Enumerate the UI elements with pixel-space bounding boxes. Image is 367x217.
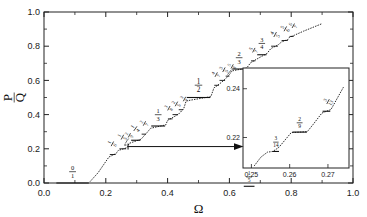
plot-canvas: 0.00.20.40.60.81.0Ω0.00.20.40.60.81.0PQ0…	[0, 0, 367, 217]
fraction-denominator: 7	[254, 49, 260, 54]
plateau-3-8: 38	[163, 103, 175, 119]
fraction-denominator: 5	[248, 177, 251, 183]
plateau-label: 37	[178, 94, 190, 104]
y-tick-label: 0.6	[27, 76, 40, 86]
fraction-denominator: 9	[298, 123, 301, 129]
plateau-label: 13	[155, 107, 162, 122]
y-tick-label: 1.0	[27, 7, 40, 17]
fraction-denominator: 2	[197, 86, 201, 94]
x-tick-label: 0.8	[285, 188, 298, 198]
fraction-numerator: 3	[260, 36, 263, 43]
fraction-denominator: 9	[129, 134, 135, 139]
plateau-1-6: 16	[106, 139, 118, 155]
plateau-label: 16	[106, 139, 118, 149]
plateau-label: 23	[236, 50, 243, 65]
fraction-numerator: 1	[107, 140, 113, 145]
plateau-1-3: 13	[151, 107, 165, 126]
plateau-label: 14	[128, 123, 142, 135]
inset-y-tick-label: 0.24	[226, 85, 240, 92]
plateau-0-1: 01	[56, 164, 88, 183]
fraction-denominator: 3	[238, 58, 241, 65]
plateau-2-3: 23	[232, 50, 246, 69]
plateau-label: 38	[163, 103, 175, 113]
fraction-denominator: 14	[273, 142, 279, 148]
fraction-denominator: 6	[284, 27, 291, 32]
x-tick-label: 0.0	[38, 188, 51, 198]
fraction-denominator: 7	[293, 24, 299, 29]
plateau-label: 58	[226, 62, 238, 71]
y-tick-label: 0.0	[27, 178, 40, 188]
plateau-label: 27	[138, 119, 150, 129]
fraction-numerator: 1	[157, 107, 160, 114]
plateau-label: 34	[259, 36, 265, 50]
fraction-denominator: 4	[260, 43, 263, 50]
x-tick-label: 1.0	[347, 188, 360, 198]
fraction-denominator: 4	[134, 127, 141, 133]
y-axis-title: PQ	[0, 92, 27, 102]
fraction-denominator: 3	[157, 115, 160, 122]
plateau-1-2: 12	[187, 78, 210, 98]
x-tick-label: 0.2	[100, 188, 113, 198]
y-axis-title-denominator: Q	[12, 92, 27, 102]
fraction-numerator: 1	[197, 78, 201, 86]
fraction-numerator: 2	[298, 116, 301, 122]
fraction-denominator: 7	[144, 122, 150, 127]
y-tick-label: 0.2	[27, 144, 40, 154]
inset-panel: 0.250.260.270.220.241531429313	[226, 68, 349, 186]
fraction-numerator: 2	[238, 50, 241, 57]
plateau-label: 12	[195, 78, 202, 94]
inset-pointer-arrow	[128, 143, 243, 150]
plateau-label: 67	[287, 21, 299, 31]
fraction-denominator: 7	[216, 73, 222, 78]
plateau-4-5: 45	[268, 29, 282, 46]
y-tick-label: 0.4	[27, 110, 40, 120]
fraction-numerator: 0	[71, 164, 74, 171]
fraction-denominator: 1	[71, 172, 74, 179]
x-tick-label: 0.4	[161, 188, 174, 198]
fraction-denominator: 8	[169, 107, 175, 112]
fraction-numerator: 3	[218, 66, 224, 71]
fraction-numerator: 2	[171, 100, 177, 105]
plateau-label: 01	[69, 164, 76, 179]
inset-frame	[243, 68, 349, 168]
plateau-label: 57	[248, 45, 260, 55]
plateau-label: 25	[170, 99, 182, 109]
inset-y-tick-label: 0.22	[226, 134, 240, 141]
inset-x-tick-label: 0.27	[321, 171, 335, 178]
fraction-denominator: 6	[112, 143, 118, 148]
inset-x-tick-label: 0.26	[283, 171, 297, 178]
y-tick-label: 0.8	[27, 41, 40, 51]
x-axis-title: Ω	[194, 201, 204, 216]
plateau-label: 45	[268, 29, 282, 40]
plateau-label: 47	[210, 70, 222, 80]
fraction-numerator: 1	[248, 170, 251, 176]
x-tick-label: 0.6	[223, 188, 236, 198]
devils-staircase-figure: 0.00.20.40.60.81.0Ω0.00.20.40.60.81.0PQ0…	[0, 0, 367, 217]
fraction-denominator: 5	[274, 33, 281, 38]
arrow-head	[234, 143, 244, 150]
fraction-denominator: 5	[176, 103, 182, 108]
fraction-numerator: 3	[275, 135, 278, 141]
